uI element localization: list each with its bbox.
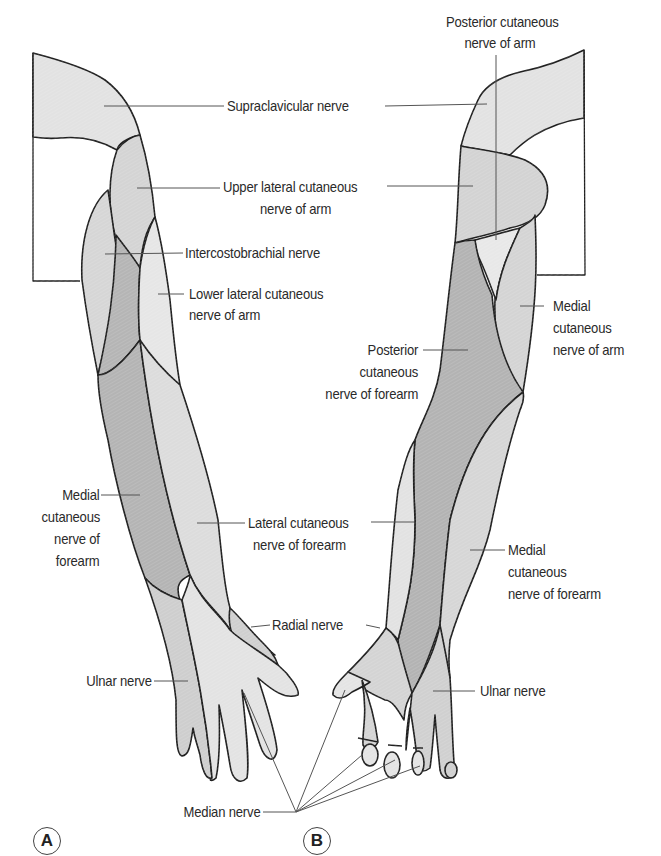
label-medial-cutaneous-forearm-b-2: cutaneous [508, 562, 567, 583]
label-medial-cutaneous-forearm-a-2: cutaneous [41, 507, 100, 528]
label-medial-cutaneous-arm-1: Medial [553, 296, 590, 317]
label-supraclavicular-nerve: Supraclavicular nerve [227, 96, 349, 117]
label-lateral-cutaneous-forearm-1: Lateral cutaneous [248, 513, 349, 534]
label-posterior-cutaneous-forearm-2: cutaneous [359, 362, 418, 383]
label-medial-cutaneous-forearm-a-3: nerve of [54, 529, 100, 550]
dermatome-figure: Supraclavicular nerve Posterior cutaneou… [0, 0, 661, 856]
label-medial-cutaneous-forearm-b-3: nerve of forearm [508, 584, 601, 605]
label-posterior-cutaneous-arm-2: nerve of arm [446, 33, 554, 54]
label-posterior-cutaneous-forearm-1: Posterior [367, 340, 418, 361]
label-ulnar-nerve-a: Ulnar nerve [87, 671, 152, 692]
label-medial-cutaneous-arm-2: cutaneous [553, 318, 612, 339]
label-medial-cutaneous-forearm-a-4: forearm [56, 551, 100, 572]
label-median-nerve: Median nerve [183, 802, 260, 823]
label-lower-lateral-cutaneous-2: nerve of arm [189, 305, 260, 326]
arm-b [333, 50, 585, 778]
label-medial-cutaneous-arm-3: nerve of arm [553, 340, 624, 361]
panel-label-a: A [33, 827, 61, 855]
label-posterior-cutaneous-forearm-3: nerve of forearm [325, 384, 418, 405]
label-medial-cutaneous-forearm-b-1: Medial [508, 540, 545, 561]
label-lower-lateral-cutaneous-1: Lower lateral cutaneous [189, 284, 323, 305]
label-posterior-cutaneous-arm-1: Posterior cutaneous [446, 12, 554, 33]
arm-a [33, 53, 298, 781]
region-supraclavicular-a [33, 53, 140, 150]
label-upper-lateral-cutaneous-1: Upper lateral cutaneous [223, 177, 357, 198]
panel-label-b: B [303, 827, 331, 855]
label-radial-nerve: Radial nerve [272, 615, 343, 636]
label-intercostobrachial-nerve: Intercostobrachial nerve [185, 243, 320, 264]
label-ulnar-nerve-b: Ulnar nerve [480, 681, 545, 702]
region-supraclavicular-b [461, 50, 584, 155]
label-upper-lateral-cutaneous-2: nerve of arm [260, 199, 331, 220]
label-medial-cutaneous-forearm-a-1: Medial [63, 485, 100, 506]
arm-illustration [0, 0, 661, 856]
label-lateral-cutaneous-forearm-2: nerve of forearm [253, 535, 346, 556]
